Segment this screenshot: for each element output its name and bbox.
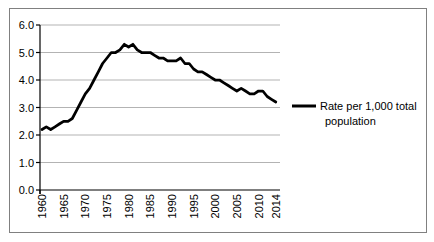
legend-label-line1: Rate per 1,000 total [320,100,417,112]
y-axis-label: 4.0 [19,74,34,86]
y-axis-label: 5.0 [19,47,34,59]
y-axis-label: 0.0 [19,184,34,196]
x-axis-label: 1985 [144,194,156,218]
line-chart: 0.01.02.03.04.05.06.0 196019651970197519… [0,0,434,242]
y-axis-label: 6.0 [19,19,34,31]
y-axis-label: 3.0 [19,102,34,114]
x-axis-label: 1960 [36,194,48,218]
x-axis-label: 1995 [188,194,200,218]
y-axis-label: 2.0 [19,129,34,141]
x-axis-label: 2014 [270,194,282,218]
x-axis-label: 1965 [58,194,70,218]
legend-label-line2: population [325,115,376,127]
x-axis-label: 1990 [166,194,178,218]
x-axis-label: 2005 [231,194,243,218]
x-axis-label: 1980 [123,194,135,218]
y-axis-label: 1.0 [19,157,34,169]
x-axis-label: 2010 [253,194,265,218]
x-axis-label: 1970 [79,194,91,218]
chart-figure: 0.01.02.03.04.05.06.0 196019651970197519… [0,0,434,242]
x-axis-label: 2000 [209,194,221,218]
x-axis-label: 1975 [101,194,113,218]
